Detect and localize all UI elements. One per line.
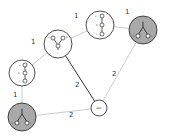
edge-label-n5-n6: 2 [69,111,73,119]
edge-label-n2-n3: 1 [125,8,129,16]
chain-vertex-icon [100,32,104,36]
node-n6[interactable]: abc [91,100,107,116]
node-n1[interactable]: a b c [44,30,72,58]
tree-vertex-icon [136,34,140,38]
edge-label-n3-n6: 2 [112,70,116,78]
edges [22,25,143,117]
edge-label-n4-n1: 1 [31,38,35,46]
node-n4[interactable]: a b c [9,60,35,86]
tree-vertex-icon [146,34,150,38]
chain-vertex-icon [100,14,104,18]
node-n3[interactable]: a b c [129,16,157,44]
chain-vertex-icon [100,23,104,27]
tree-vertex-icon [25,121,29,125]
tree-vertex-icon [56,44,60,48]
node-n2[interactable]: a b c [86,11,114,39]
chain-vertex-icon [23,79,27,83]
tree-vertex-icon [61,36,65,40]
chain-vertex-icon [23,71,27,75]
tree-vertex-icon [51,36,55,40]
chain-vertex-icon [23,63,27,67]
edge-label-n1-n6: 2 [75,81,79,89]
tree-vertex-icon [15,121,19,125]
node-n5[interactable]: a b c [8,103,36,131]
edge-label-n4-n5: 1 [13,91,17,99]
edge-label-n1-n2: 1 [74,12,78,20]
center-node-label: abc [96,106,102,110]
graph-diagram: 1 1 1 1 2 2 2 a b c a b c a [0,0,169,139]
